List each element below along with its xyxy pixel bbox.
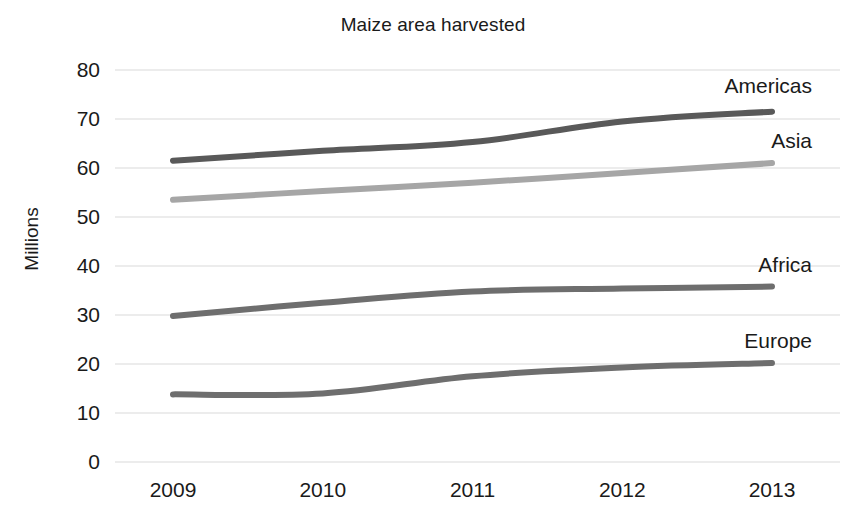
series-label-africa: Africa	[572, 253, 812, 277]
x-axis-tick-label: 2010	[263, 478, 383, 502]
series-label-americas: Americas	[572, 74, 812, 98]
series-line[interactable]	[173, 287, 772, 316]
x-axis-tick-label: 2013	[712, 478, 832, 502]
x-axis-tick-label: 2009	[113, 478, 233, 502]
chart-container: Maize area harvested Millions 0102030405…	[0, 0, 866, 522]
series-line[interactable]	[173, 163, 772, 200]
series-line[interactable]	[173, 363, 772, 395]
x-axis-tick-label: 2012	[562, 478, 682, 502]
series-label-asia: Asia	[572, 129, 812, 153]
series-label-europe: Europe	[572, 329, 812, 353]
x-axis-tick-label: 2011	[413, 478, 533, 502]
